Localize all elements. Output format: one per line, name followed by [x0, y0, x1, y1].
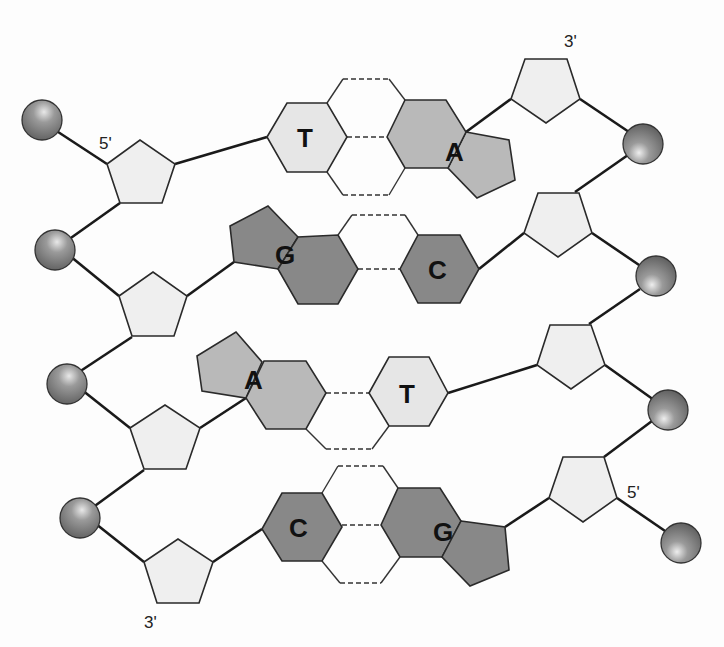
phosphate-sphere	[648, 390, 688, 430]
base-label: G	[275, 240, 295, 270]
phosphate-sphere	[47, 364, 87, 404]
base-label: C	[428, 255, 447, 285]
sugar-pentagon	[524, 193, 592, 257]
sugars	[107, 59, 617, 603]
strand-end-label: 3'	[564, 32, 577, 51]
phosphate-sphere	[623, 124, 663, 164]
sugar-pentagon	[511, 59, 580, 123]
strand-end-label: 5'	[627, 483, 640, 502]
base-labels: T A G C A T C G	[244, 123, 464, 547]
sugar-pentagon	[537, 325, 605, 389]
phosphate-sphere	[60, 498, 100, 538]
phosphate-sphere	[35, 230, 75, 270]
sugar-pentagon	[549, 457, 617, 522]
sugar-pentagon	[107, 140, 175, 203]
strand-end-label: 5'	[99, 134, 112, 153]
dna-diagram: T A G C A T C G 5' 3' 3' 5'	[0, 0, 724, 647]
phosphate-sphere	[636, 256, 676, 296]
base-label: G	[433, 517, 453, 547]
base-label: T	[297, 123, 313, 153]
phosphate-sphere	[661, 523, 701, 563]
sugar-pentagon	[130, 405, 200, 469]
base-label: C	[289, 513, 308, 543]
base-label: T	[399, 379, 415, 409]
sugar-pentagon	[119, 272, 187, 336]
strand-end-label: 3'	[144, 613, 157, 632]
base-label: A	[244, 365, 263, 395]
sugar-pentagon	[144, 539, 213, 603]
phosphate-sphere	[22, 100, 62, 140]
base-label: A	[445, 137, 464, 167]
